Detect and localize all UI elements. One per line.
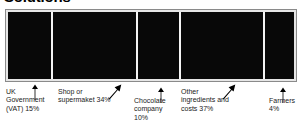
- bar-segment-shop-supermarket[interactable]: [53, 12, 138, 79]
- segment-label-uk-government: UK Government (VAT) 15%: [6, 88, 56, 113]
- bar-segment-chocolate-company[interactable]: [138, 12, 180, 79]
- stacked-bar-track: [8, 12, 294, 79]
- bar-segment-other-ingredients[interactable]: [181, 12, 266, 79]
- chart-container: Solutions UK Government (VAT) 15% Shop o…: [0, 0, 303, 126]
- bar-segment-uk-government[interactable]: [8, 12, 53, 79]
- segment-label-farmers: Farmers 4%: [269, 97, 301, 114]
- segment-label-chocolate-company: Chocolate company 10%: [134, 97, 178, 122]
- segment-label-shop-supermarket: Shop or supermaket 34%: [58, 88, 128, 105]
- stacked-bar-frame: [5, 9, 297, 82]
- bar-segment-farmers[interactable]: [265, 12, 294, 79]
- page-title: Solutions: [4, 0, 71, 4]
- segment-label-other-ingredients: Other ingredients and costs 37%: [181, 88, 245, 113]
